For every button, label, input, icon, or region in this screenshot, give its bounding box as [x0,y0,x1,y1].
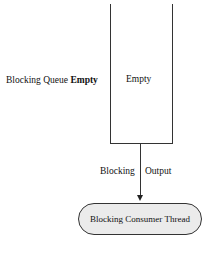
arrow-label-blocking: Blocking [100,167,135,177]
output-arrow-line [140,144,141,196]
queue-label-state: Empty [70,75,97,85]
output-arrow-head [137,195,143,201]
consumer-thread-node: Blocking Consumer Thread [78,203,202,235]
queue-left-wall [110,4,111,144]
consumer-thread-label: Blocking Consumer Thread [90,214,190,224]
queue-label-prefix: Blocking Queue [6,75,70,85]
queue-bottom-wall [110,143,173,144]
queue-content: Empty [126,75,151,85]
queue-right-wall [172,4,173,144]
arrow-label-output: Output [145,167,171,177]
queue-label: Blocking Queue Empty [6,76,98,86]
